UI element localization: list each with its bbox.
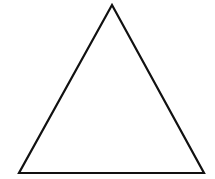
triangle-shape: [19, 5, 204, 173]
triangle-diagram: [0, 0, 215, 179]
diagram-canvas: [0, 0, 215, 179]
